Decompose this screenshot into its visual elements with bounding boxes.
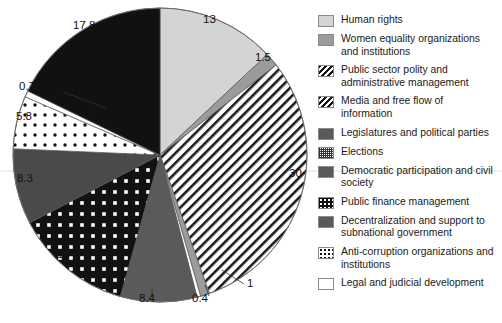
legend-item-media[interactable]: Media and free flow of information bbox=[318, 95, 502, 120]
pie-label-legal-judicial: 17.8 bbox=[73, 20, 95, 32]
legend-item-public-finance[interactable]: Public finance management bbox=[318, 196, 502, 209]
legend-swatch-legislatures bbox=[318, 128, 334, 140]
legend-item-public-sector-polity[interactable]: Public sector polity and administrative … bbox=[318, 64, 502, 89]
legend-label-decentralization: Decentralization and support to subnatio… bbox=[341, 215, 497, 240]
pie-label-democratic-participation: 13 bbox=[57, 249, 70, 261]
legend-swatch-public-finance bbox=[318, 197, 334, 209]
legend-item-human-rights[interactable]: Human rights bbox=[318, 14, 502, 27]
legend-label-media: Media and free flow of information bbox=[341, 95, 497, 120]
legend-swatch-decentralization bbox=[318, 216, 334, 228]
pie-label-women-equality: 1.5 bbox=[255, 52, 271, 64]
pie-label-anticorruption: 0.7 bbox=[19, 81, 35, 93]
legend-label-elections: Elections bbox=[341, 146, 383, 159]
legend-swatch-human-rights bbox=[318, 15, 334, 27]
pie-chart-svg bbox=[0, 0, 318, 323]
legend-label-public-finance: Public finance management bbox=[341, 196, 469, 209]
legend-item-legal-judicial[interactable]: Legal and judicial development bbox=[318, 277, 502, 290]
legend-label-human-rights: Human rights bbox=[341, 14, 403, 27]
chart-page: 13 1.5 30 1 0.4 8.4 13 8.3 5.8 0.7 17.8 … bbox=[0, 0, 502, 323]
pie-label-media: 1 bbox=[247, 278, 253, 290]
legend-label-anticorruption: Anti-corruption organizations and instit… bbox=[341, 246, 497, 271]
legend-label-democratic-participation: Democratic participation and civil socie… bbox=[341, 165, 497, 190]
legend-swatch-democratic-participation bbox=[318, 166, 334, 178]
legend-label-women-equality: Women equality organizations and institu… bbox=[341, 33, 497, 58]
legend-swatch-media bbox=[318, 96, 334, 108]
legend-swatch-legal-judicial bbox=[318, 278, 334, 290]
legend-swatch-public-sector-polity bbox=[318, 65, 334, 77]
legend-item-legislatures[interactable]: Legislatures and political parties bbox=[318, 127, 502, 140]
legend-item-decentralization[interactable]: Decentralization and support to subnatio… bbox=[318, 215, 502, 240]
legend-item-democratic-participation[interactable]: Democratic participation and civil socie… bbox=[318, 165, 502, 190]
legend-label-legislatures: Legislatures and political parties bbox=[341, 127, 489, 140]
pie-label-decentralization: 5.8 bbox=[16, 111, 32, 123]
pie-label-public-sector: 30 bbox=[289, 168, 302, 180]
pie-label-legislatures: 0.4 bbox=[192, 293, 208, 305]
pie-label-elections: 8.4 bbox=[139, 293, 155, 305]
legend-label-legal-judicial: Legal and judicial development bbox=[341, 277, 484, 290]
legend-item-women-equality[interactable]: Women equality organizations and institu… bbox=[318, 33, 502, 58]
legend-swatch-anticorruption bbox=[318, 247, 334, 259]
pie-chart: 13 1.5 30 1 0.4 8.4 13 8.3 5.8 0.7 17.8 bbox=[0, 0, 318, 323]
legend-label-public-sector-polity: Public sector polity and administrative … bbox=[341, 64, 497, 89]
legend-item-elections[interactable]: Elections bbox=[318, 146, 502, 159]
legend-swatch-women-equality bbox=[318, 34, 334, 46]
pie-label-human-rights: 13 bbox=[203, 14, 216, 26]
pie-label-public-finance: 8.3 bbox=[17, 173, 33, 185]
legend-swatch-elections bbox=[318, 147, 334, 159]
legend-item-anticorruption[interactable]: Anti-corruption organizations and instit… bbox=[318, 246, 502, 271]
chart-legend: Human rights Women equality organization… bbox=[318, 14, 502, 314]
